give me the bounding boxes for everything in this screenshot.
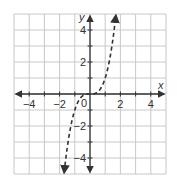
x-tick-label: 4 bbox=[148, 98, 154, 110]
y-axis-label: y bbox=[78, 11, 86, 23]
y-tick-label: 4 bbox=[80, 24, 86, 36]
x-tick-label: −4 bbox=[23, 98, 36, 110]
x-tick-label: −2 bbox=[53, 98, 66, 110]
y-tick-label: 2 bbox=[80, 56, 86, 68]
cubic-function-graph: −4−224−4−224 x y 0 bbox=[0, 0, 178, 183]
y-tick-label: −2 bbox=[73, 120, 86, 132]
x-axis-label: x bbox=[157, 79, 164, 91]
origin-label: 0 bbox=[81, 97, 87, 109]
y-tick-label: −4 bbox=[73, 152, 86, 164]
x-tick-label: 2 bbox=[117, 98, 123, 110]
